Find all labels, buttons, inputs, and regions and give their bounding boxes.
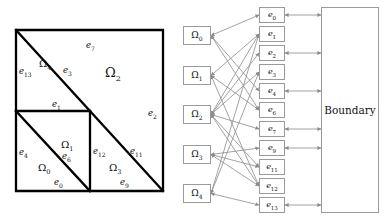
graph-node-omega-text: Ω3 — [191, 149, 202, 161]
graph-node-e6[interactable]: e6 — [259, 102, 285, 118]
graph-node-edge-index: 3 — [273, 71, 277, 77]
graph-node-omega-index: 1 — [199, 74, 203, 81]
graph-node-Omega3[interactable]: Ω3 — [183, 145, 211, 164]
graph-node-boundary-label: Boundary — [324, 104, 376, 116]
graph-node-omega-text: Ω0 — [191, 30, 202, 42]
graph-node-edge-index: 1 — [273, 33, 277, 39]
graph-node-omega-text: Ω2 — [191, 109, 202, 121]
graph-node-e12[interactable]: e12 — [259, 178, 285, 194]
graph-link-Omega0-e0 — [211, 15, 259, 36]
graph-node-omega-index: 3 — [199, 153, 203, 160]
figure-root: e0e1e2e3e4e6e7e9e11e12e13Ω0Ω1Ω2Ω3Ω4 Ω0Ω1… — [0, 0, 386, 223]
graph-link-Omega4-e13 — [211, 194, 259, 206]
graph-node-e9[interactable]: e9 — [259, 140, 285, 156]
graph-node-edge-index: 13 — [271, 204, 278, 210]
graph-node-edge-text: e3 — [268, 67, 276, 78]
graph-node-omega-symbol: Ω — [191, 109, 198, 119]
graph-node-edge-index: 0 — [273, 14, 277, 20]
graph-node-omega-text: Ω4 — [191, 188, 202, 200]
graph-link-Omega2-e3 — [211, 72, 259, 115]
graph-node-edge-text: e12 — [266, 181, 278, 192]
graph-node-edge-text: e6 — [268, 105, 276, 116]
graph-node-edge-index: 12 — [271, 185, 278, 191]
graph-node-edge-text: e2 — [268, 48, 276, 59]
graph-node-boundary[interactable]: Boundary — [321, 7, 379, 213]
graph-node-edge-text: e11 — [266, 162, 278, 173]
graph-node-edge-index: 9 — [273, 147, 277, 153]
graph-link-Omega0-e4 — [211, 36, 259, 92]
graph-node-e11[interactable]: e11 — [259, 159, 285, 175]
graph-node-omega-symbol: Ω — [191, 188, 198, 198]
graph-node-omega-index: 4 — [199, 192, 203, 199]
graph-node-edge-index: 4 — [273, 90, 277, 96]
graph-link-Omega2-e7 — [211, 115, 259, 130]
graph-node-e3[interactable]: e3 — [259, 64, 285, 80]
graph-node-e13[interactable]: e13 — [259, 197, 285, 213]
graph-node-e4[interactable]: e4 — [259, 83, 285, 99]
graph-node-edge-text: e0 — [268, 10, 276, 21]
graph-node-edge-index: 2 — [273, 52, 277, 58]
graph-node-e0[interactable]: e0 — [259, 7, 285, 23]
graph-node-Omega0[interactable]: Ω0 — [183, 26, 211, 45]
graph-node-edge-index: 7 — [273, 128, 277, 134]
graph-node-Omega1[interactable]: Ω1 — [183, 66, 211, 85]
graph-node-edge-text: e1 — [268, 29, 276, 40]
graph-node-edge-text: e9 — [268, 143, 276, 154]
graph-node-Omega4[interactable]: Ω4 — [183, 184, 211, 203]
graph-link-Omega1-e1 — [211, 34, 259, 76]
graph-node-Omega2[interactable]: Ω2 — [183, 105, 211, 124]
graph-node-omega-symbol: Ω — [191, 30, 198, 40]
graph-node-e7[interactable]: e7 — [259, 121, 285, 137]
graph-node-edge-text: e7 — [268, 124, 276, 135]
graph-node-edge-index: 6 — [273, 109, 277, 115]
graph-node-omega-index: 0 — [199, 34, 203, 41]
graph-node-omega-symbol: Ω — [191, 149, 198, 159]
graph-node-e1[interactable]: e1 — [259, 26, 285, 42]
graph-node-omega-index: 2 — [199, 113, 203, 120]
graph-node-edge-index: 11 — [271, 166, 278, 172]
graph-node-omega-text: Ω1 — [191, 70, 202, 82]
graph-node-edge-text: e13 — [266, 200, 278, 211]
graph-link-Omega3-e9 — [211, 148, 259, 155]
graph-node-e2[interactable]: e2 — [259, 45, 285, 61]
graph-node-omega-symbol: Ω — [191, 70, 198, 80]
graph-node-edge-text: e4 — [268, 86, 276, 97]
graph-link-Omega3-e11 — [211, 155, 259, 168]
